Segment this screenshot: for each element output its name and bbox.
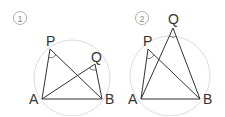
point-label-A: A bbox=[29, 91, 39, 107]
panel-number: 1 bbox=[17, 14, 22, 24]
segment-AP bbox=[42, 49, 50, 99]
segment-AQ bbox=[42, 64, 95, 99]
point-label-B: B bbox=[105, 91, 114, 107]
segment-PB bbox=[148, 49, 200, 99]
angle-mark-P bbox=[49, 55, 56, 58]
point-label-P: P bbox=[46, 33, 55, 49]
panel-2: 2 P Q A B bbox=[128, 11, 212, 116]
angle-mark-P bbox=[147, 55, 154, 59]
point-label-A: A bbox=[128, 91, 138, 107]
point-label-Q: Q bbox=[91, 49, 102, 65]
panel-number: 2 bbox=[139, 14, 144, 24]
circumcircle bbox=[130, 36, 210, 116]
point-label-Q: Q bbox=[168, 11, 179, 27]
panel-1: 1 P Q A B bbox=[14, 12, 115, 117]
point-label-B: B bbox=[203, 91, 212, 107]
segment-QB bbox=[173, 28, 200, 99]
point-label-P: P bbox=[143, 33, 152, 49]
geometry-figure: 1 P Q A B 2 P Q A B bbox=[0, 0, 225, 116]
